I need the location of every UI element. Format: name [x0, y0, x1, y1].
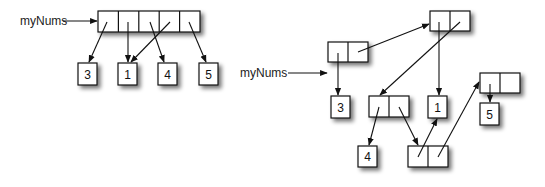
cons-cell-a [328, 42, 368, 62]
cons-cell-b [430, 11, 470, 31]
value-text: 3 [84, 68, 91, 82]
array-box [98, 11, 200, 32]
pointer-a-cdr-to-b [358, 24, 429, 52]
left-value-1: 1 [118, 63, 137, 85]
pointer-e-cdr-to-d [438, 82, 479, 157]
left-variable-label: myNums [20, 14, 67, 28]
left-array-diagram: myNums 3 1 4 5 [20, 11, 218, 85]
left-value-3: 3 [78, 63, 97, 85]
right-value-1: 1 [428, 96, 447, 118]
value-text: 3 [337, 101, 344, 115]
left-array [98, 11, 200, 32]
diagram-canvas: myNums 3 1 4 5 [0, 0, 545, 187]
right-value-5: 5 [480, 103, 499, 125]
value-text: 4 [364, 150, 371, 164]
value-text: 1 [124, 68, 131, 82]
right-value-4: 4 [358, 146, 377, 167]
right-variable-label: myNums [240, 66, 287, 80]
value-text: 5 [486, 108, 493, 122]
value-text: 1 [434, 101, 441, 115]
right-value-3: 3 [331, 96, 350, 118]
pointer-b-cdr-to-c [380, 22, 460, 95]
left-value-5: 5 [199, 63, 218, 85]
value-text: 5 [205, 68, 212, 82]
left-value-4: 4 [158, 63, 177, 85]
value-text: 4 [164, 68, 171, 82]
right-linked-diagram: myNums 3 [240, 11, 520, 167]
cons-cell-d [480, 73, 520, 93]
